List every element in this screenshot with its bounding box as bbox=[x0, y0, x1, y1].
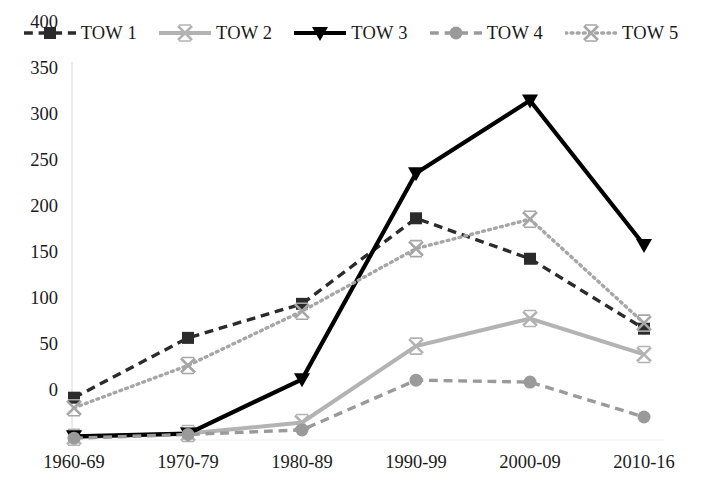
marker-circle bbox=[296, 423, 309, 436]
y-tick-label: 100 bbox=[14, 288, 58, 309]
legend-marker bbox=[449, 27, 462, 40]
legend-item-label: TOW 1 bbox=[81, 23, 137, 44]
legend-item-label: TOW 3 bbox=[351, 23, 407, 44]
legend-item-label: TOW 4 bbox=[487, 23, 543, 44]
data-point bbox=[409, 241, 423, 257]
y-axis-labels: 400350300250200150100500 bbox=[14, 0, 58, 400]
series-line bbox=[74, 319, 644, 438]
x-tick-label: 1990-99 bbox=[385, 452, 447, 473]
marker-triangle-down bbox=[636, 239, 652, 253]
legend-item-tow-5[interactable]: TOW 5 bbox=[565, 23, 678, 44]
x-tick-label: 2010-16 bbox=[613, 452, 675, 473]
legend-item-label: TOW 2 bbox=[216, 23, 272, 44]
y-tick-label: 0 bbox=[14, 380, 58, 401]
data-point bbox=[524, 376, 537, 389]
marker-circle bbox=[449, 27, 462, 40]
chart-svg bbox=[0, 50, 702, 450]
legend-key-swatch bbox=[294, 24, 346, 42]
y-tick-label: 300 bbox=[14, 104, 58, 125]
marker-square bbox=[524, 253, 536, 265]
legend-key-swatch bbox=[430, 24, 482, 42]
data-point bbox=[410, 374, 423, 387]
y-tick-label: 150 bbox=[14, 242, 58, 263]
y-tick-label: 350 bbox=[14, 58, 58, 79]
marker-square bbox=[182, 332, 194, 344]
data-point bbox=[182, 332, 194, 344]
y-tick-label: 250 bbox=[14, 150, 58, 171]
marker-circle bbox=[410, 374, 423, 387]
data-point bbox=[68, 432, 81, 445]
legend-item-tow-3[interactable]: TOW 3 bbox=[294, 23, 407, 44]
legend-item-label: TOW 5 bbox=[622, 23, 678, 44]
y-tick-label: 50 bbox=[14, 334, 58, 355]
legend-key-swatch bbox=[565, 24, 617, 42]
chart-legend: TOW 1TOW 2TOW 3TOW 4TOW 5 bbox=[0, 16, 702, 50]
data-point bbox=[181, 357, 195, 373]
legend-key-icon bbox=[565, 24, 617, 42]
legend-key-swatch bbox=[159, 24, 211, 42]
x-tick-label: 1980-89 bbox=[271, 452, 333, 473]
data-point bbox=[638, 411, 651, 424]
data-point bbox=[636, 239, 652, 253]
marker-circle bbox=[182, 428, 195, 441]
marker-circle bbox=[638, 411, 651, 424]
series-line bbox=[74, 380, 644, 438]
chart-plot-area bbox=[0, 50, 702, 450]
x-tick-label: 2000-09 bbox=[499, 452, 561, 473]
chart-screenshot: TOW 1TOW 2TOW 3TOW 4TOW 5 40035030025020… bbox=[0, 0, 702, 499]
y-tick-label: 400 bbox=[14, 12, 58, 33]
legend-key-icon bbox=[430, 24, 482, 42]
x-tick-label: 1960-69 bbox=[43, 452, 105, 473]
data-point bbox=[296, 423, 309, 436]
marker-x bbox=[181, 358, 195, 372]
legend-key-icon bbox=[159, 24, 211, 42]
x-axis-labels: 1960-691970-791980-891990-992000-092010-… bbox=[0, 452, 702, 492]
legend-key-icon bbox=[294, 24, 346, 42]
series-line bbox=[74, 219, 644, 408]
marker-x bbox=[409, 242, 423, 256]
legend-item-tow-2[interactable]: TOW 2 bbox=[159, 23, 272, 44]
y-tick-label: 200 bbox=[14, 196, 58, 217]
data-point bbox=[410, 212, 422, 224]
legend-item-tow-4[interactable]: TOW 4 bbox=[430, 23, 543, 44]
marker-circle bbox=[68, 432, 81, 445]
x-tick-label: 1970-79 bbox=[157, 452, 219, 473]
series-tow-1 bbox=[68, 212, 650, 403]
data-point bbox=[524, 253, 536, 265]
marker-circle bbox=[524, 376, 537, 389]
marker-square bbox=[410, 212, 422, 224]
data-point bbox=[182, 428, 195, 441]
